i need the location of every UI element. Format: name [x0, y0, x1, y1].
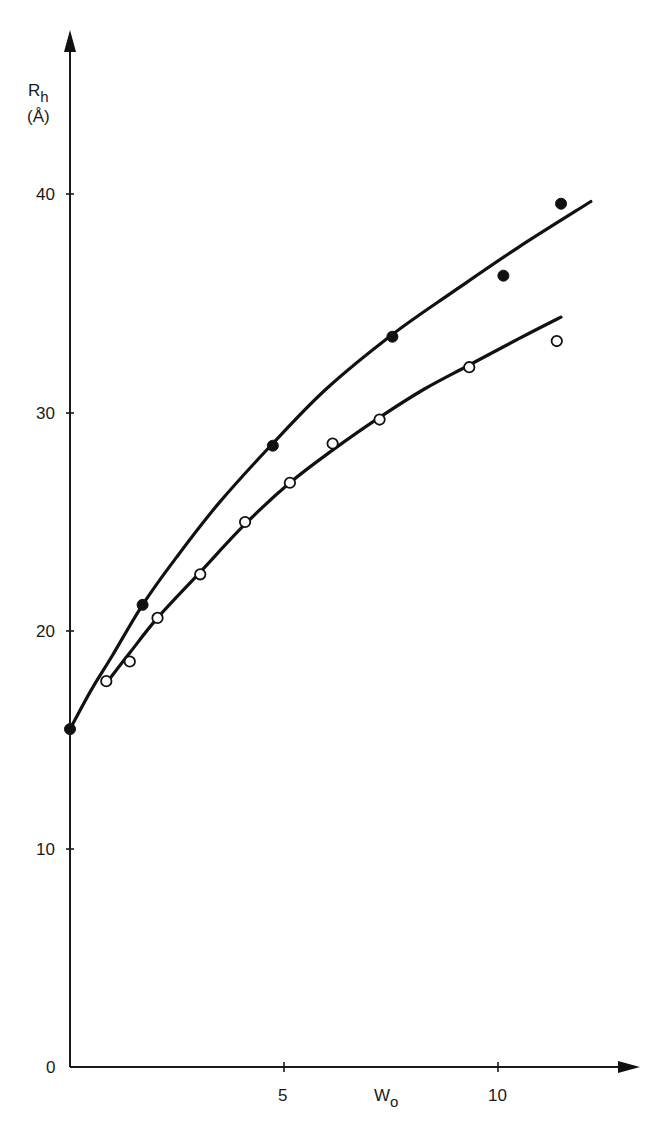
filled-data-point — [65, 724, 76, 735]
y-axis-title: Rh — [28, 81, 49, 105]
y-axis-unit: (Å) — [27, 107, 50, 126]
fit-curves — [70, 202, 591, 730]
open-data-point — [240, 517, 250, 527]
filled-data-point — [556, 198, 567, 209]
open-data-point — [552, 336, 562, 346]
x-axis-title: Wo — [374, 1086, 398, 1110]
filled-data-point — [498, 270, 509, 281]
open-data-point — [327, 438, 337, 448]
fit-curve-open — [106, 317, 561, 683]
filled-data-point — [387, 331, 398, 342]
open-data-point — [195, 569, 205, 579]
origin-label: 0 — [46, 1058, 55, 1077]
filled-data-point — [137, 599, 148, 610]
filled-data-point — [267, 440, 278, 451]
x-axis-arrow-icon — [618, 1061, 640, 1073]
open-data-point — [464, 362, 474, 372]
open-data-point — [374, 414, 384, 424]
y-tick-label-40: 40 — [36, 185, 55, 204]
y-axis-arrow-icon — [64, 30, 76, 52]
chart-canvas: 40 30 20 10 0 5 10 Rh (Å) Wo — [0, 0, 662, 1144]
y-tick-label-10: 10 — [36, 840, 55, 859]
open-data-point — [285, 478, 295, 488]
open-data-point — [152, 613, 162, 623]
y-tick-label-20: 20 — [36, 622, 55, 641]
data-points — [65, 198, 567, 734]
y-tick-label-30: 30 — [36, 404, 55, 423]
fit-curve-filled — [70, 202, 591, 730]
x-tick-label-5: 5 — [278, 1086, 287, 1105]
open-data-point — [125, 656, 135, 666]
open-data-point — [101, 676, 111, 686]
x-tick-label-10: 10 — [488, 1086, 507, 1105]
